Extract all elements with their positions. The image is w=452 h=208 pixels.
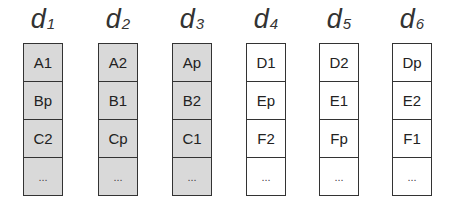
block-cell: D2	[320, 44, 358, 82]
block-cell: A2	[99, 44, 137, 82]
block-cell: E2	[393, 82, 431, 120]
disk-label-index: 4	[270, 15, 278, 32]
block-cell: B2	[173, 82, 211, 120]
ellipsis-cell: ...	[247, 158, 285, 195]
disk-label-index: 2	[122, 15, 130, 32]
disk-label-index: 1	[47, 15, 55, 32]
block-cell: Ep	[247, 82, 285, 120]
disk-label: d5	[319, 4, 359, 35]
disk-label-letter: d	[31, 4, 46, 34]
disk-label: d6	[392, 4, 432, 35]
disk-label-letter: d	[327, 4, 342, 34]
disk-label: d1	[23, 4, 63, 35]
disk-label-letter: d	[106, 4, 121, 34]
block-cell: D1	[247, 44, 285, 82]
disk-label: d4	[246, 4, 286, 35]
ellipsis-cell: ...	[393, 158, 431, 195]
block-cell: Fp	[320, 120, 358, 158]
ellipsis-cell: ...	[320, 158, 358, 195]
ellipsis-cell: ...	[99, 158, 137, 195]
disk-label-letter: d	[254, 4, 269, 34]
block-cell: E1	[320, 82, 358, 120]
ellipsis-cell: ...	[24, 158, 62, 195]
ellipsis-cell: ...	[173, 158, 211, 195]
block-stack: A1 Bp C2 ...	[23, 43, 63, 196]
block-stack: Dp E2 F1 ...	[392, 43, 432, 196]
disk-label-letter: d	[180, 4, 195, 34]
disk-label-index: 5	[343, 15, 351, 32]
disk-label: d3	[172, 4, 212, 35]
block-stack: A2 B1 Cp ...	[98, 43, 138, 196]
disk-label-index: 6	[416, 15, 424, 32]
block-stack: Ap B2 C1 ...	[172, 43, 212, 196]
disk-label: d2	[98, 4, 138, 35]
disk-label-index: 3	[196, 15, 204, 32]
block-cell: A1	[24, 44, 62, 82]
block-cell: Dp	[393, 44, 431, 82]
disk-label-letter: d	[400, 4, 415, 34]
block-stack: D2 E1 Fp ...	[319, 43, 359, 196]
block-cell: Bp	[24, 82, 62, 120]
block-cell: F1	[393, 120, 431, 158]
block-cell: F2	[247, 120, 285, 158]
block-cell: B1	[99, 82, 137, 120]
block-cell: Cp	[99, 120, 137, 158]
block-cell: C1	[173, 120, 211, 158]
block-cell: C2	[24, 120, 62, 158]
block-stack: D1 Ep F2 ...	[246, 43, 286, 196]
block-cell: Ap	[173, 44, 211, 82]
